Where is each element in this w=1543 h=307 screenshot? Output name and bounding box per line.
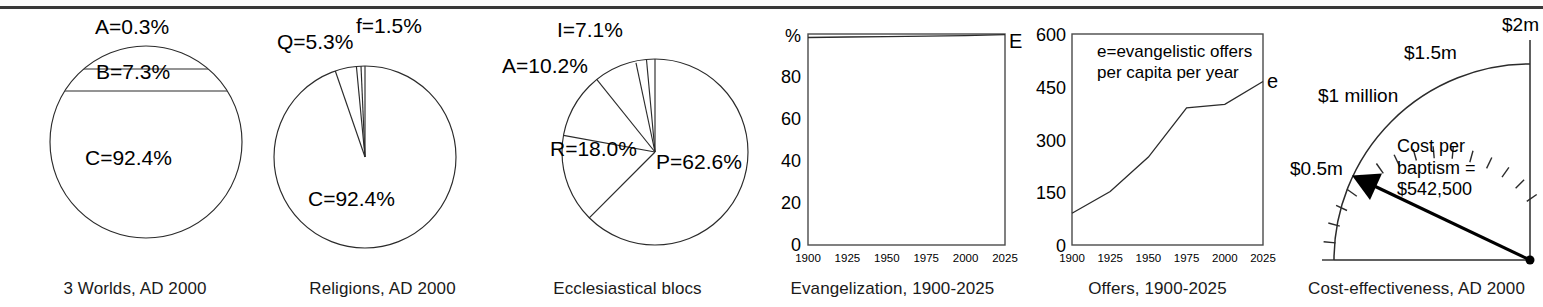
ecclesiastical-labels: I=7.1% A=10.2% R=18.0% P=62.6%	[495, 12, 760, 262]
ytick-450: 450	[1036, 78, 1066, 98]
xtick-1900-offers: 1900	[1059, 252, 1085, 264]
evangelization-series-e	[808, 35, 1005, 38]
panel-evangelization: % 80 60 40 20 0 1900 1925 1950 1975 2000…	[760, 12, 1025, 307]
label-i: I=7.1%	[557, 18, 623, 42]
evangelization-svg: % 80 60 40 20 0 1900 1925 1950 1975 2000…	[760, 12, 1025, 267]
header-divider	[0, 6, 1543, 9]
label-a: A=0.3%	[95, 15, 169, 39]
xtick-1925-offers: 1925	[1097, 252, 1123, 264]
xtick-2000: 2000	[953, 252, 979, 264]
xtick-1925: 1925	[835, 252, 861, 264]
caption-offers: Offers, 1900-2025	[1025, 279, 1290, 299]
xtick-2025-offers: 2025	[1250, 252, 1276, 264]
three-worlds-labels: A=0.3% B=7.3% C=92.4%	[0, 12, 270, 262]
xtick-2025: 2025	[992, 252, 1018, 264]
religions-labels: Q=5.3% f=1.5% C=92.4%	[270, 12, 495, 262]
xtick-1975: 1975	[913, 252, 939, 264]
ytick-300: 300	[1036, 131, 1066, 151]
label-c-religions: C=92.4%	[308, 187, 395, 211]
caption-three-worlds: 3 Worlds, AD 2000	[0, 279, 270, 299]
figure-root: A=0.3% B=7.3% C=92.4% 3 Worlds, AD 2000 …	[0, 0, 1543, 307]
caption-cost-effectiveness: Cost-effectiveness, AD 2000	[1290, 279, 1543, 299]
caption-evangelization: Evangelization, 1900-2025	[760, 279, 1025, 299]
gauge-label-1-million: $1 million	[1318, 85, 1398, 107]
label-a-eccl: A=10.2%	[502, 54, 588, 78]
label-p: P=62.6%	[656, 150, 742, 174]
evangelization-chart: % 80 60 40 20 0 1900 1925 1950 1975 2000…	[760, 12, 1025, 267]
xtick-2000-offers: 2000	[1212, 252, 1238, 264]
xtick-1975-offers: 1975	[1174, 252, 1200, 264]
label-c: C=92.4%	[85, 146, 172, 170]
ytick-60: 60	[781, 109, 801, 129]
xtick-1900: 1900	[795, 252, 821, 264]
xtick-1950: 1950	[874, 252, 900, 264]
offers-note-line1: e=evangelistic offers	[1097, 42, 1252, 62]
panel-three-worlds: A=0.3% B=7.3% C=92.4% 3 Worlds, AD 2000	[0, 12, 270, 307]
ytick-150: 150	[1036, 183, 1066, 203]
gauge-label-0-5m: $0.5m	[1290, 158, 1343, 180]
ytick-40: 40	[781, 151, 801, 171]
panel-ecclesiastical-blocs: I=7.1% A=10.2% R=18.0% P=62.6% Ecclesias…	[495, 12, 760, 307]
gauge-label-2m: $2m	[1502, 14, 1539, 36]
label-q: Q=5.3%	[277, 30, 353, 54]
caption-ecclesiastical: Ecclesiastical blocs	[495, 279, 760, 299]
panel-offers: 600 450 300 150 0 1900 1925 1950 1975 20…	[1025, 12, 1290, 307]
series-label-e: e	[1267, 70, 1278, 93]
label-r: R=18.0%	[550, 137, 637, 161]
gauge-readout-line2: baptism = $542,500	[1397, 158, 1543, 200]
ytick-600: 600	[1036, 25, 1066, 45]
offers-note-line2: per capita per year	[1097, 63, 1239, 83]
gauge-label-1-5m: $1.5m	[1404, 42, 1457, 64]
ytick-percent: %	[785, 26, 801, 46]
panel-cost-effectiveness: $0.5m $1 million $1.5m $2m Cost per bapt…	[1290, 12, 1543, 307]
ytick-80: 80	[781, 67, 801, 87]
gauge-readout-line1: Cost per	[1397, 136, 1465, 157]
label-f: f=1.5%	[356, 14, 422, 38]
label-b: B=7.3%	[96, 60, 170, 84]
offers-series-e	[1072, 82, 1263, 214]
caption-religions: Religions, AD 2000	[270, 279, 495, 299]
gauge-labels: $0.5m $1 million $1.5m $2m Cost per bapt…	[1290, 12, 1543, 267]
ytick-20: 20	[781, 193, 801, 213]
panel-religions: Q=5.3% f=1.5% C=92.4% Religions, AD 2000	[270, 12, 495, 307]
series-label-E: E	[1009, 30, 1022, 53]
evangelization-plot-frame	[808, 34, 1005, 245]
xtick-1950-offers: 1950	[1136, 252, 1162, 264]
